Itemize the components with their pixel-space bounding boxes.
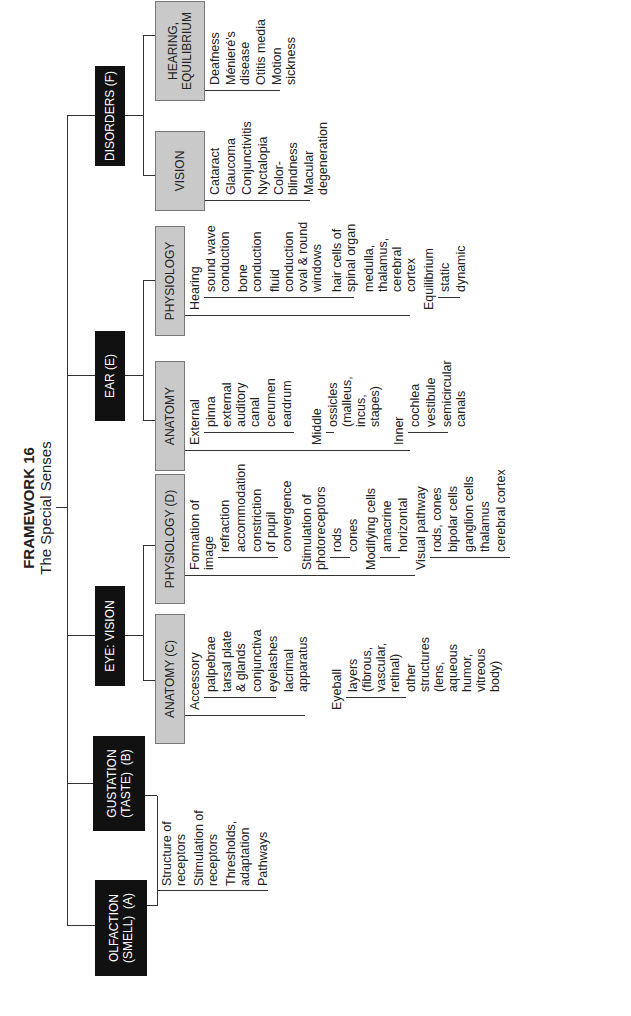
pathway-item-5: cerebral cortex [494, 469, 508, 552]
modifying-item-1: amacrine [380, 501, 394, 552]
ear-to-physiology [143, 280, 155, 281]
dis-vision-item-2: Glaucoma [224, 138, 238, 195]
ear-phys-line [185, 315, 410, 316]
olf-item-2: Stimulation of receptors [192, 810, 220, 886]
dis-vision-item-4: Nyctalopia [256, 137, 270, 195]
accessory-line [204, 697, 276, 698]
eye-phys-line [185, 575, 415, 576]
dis-hearing-item-2: Ménieré's disease [224, 31, 252, 85]
inner-item-3: semicircular canals [440, 360, 468, 427]
ear-physiology-box: PHYSIOLOGY [155, 226, 185, 336]
ear-stem [125, 375, 143, 376]
photoreceptor-line [330, 557, 350, 558]
framework-diagram: FRAMEWORK 16 The Special Senses OLFACTIO… [0, 0, 631, 1016]
eye-accessory-label: Accessory [188, 652, 202, 710]
inner-line [408, 432, 448, 433]
drop-ear [67, 375, 97, 376]
ear-anatomy-box: ANATOMY [155, 361, 185, 471]
ear-hearing-label: Hearing [188, 266, 202, 310]
dis-vision-item-5: Color- blindness [272, 142, 300, 195]
equilibrium-item-2: dynamic [454, 245, 468, 292]
category-gustation: GUSTATION (TASTE) (B) [93, 736, 145, 831]
inner-item-2: vestibule [424, 378, 438, 427]
disorders-to-hearing [143, 35, 155, 36]
accessory-item-4: eyelashes [266, 636, 280, 692]
pathway-item-4: thalamus [478, 501, 492, 552]
eyeball-item-1: layers (fibrous, vascular, retinal) [346, 643, 402, 692]
phys-photoreceptors-label: Stimulation of photoreceptors [300, 487, 328, 570]
phys-modifying-label: Modifying cells [364, 488, 378, 570]
middle-item-1: ossicles (malleus, incus, stapes) [326, 376, 382, 427]
hearing-item-5: medulla, thalamus, cerebral cortex [362, 238, 418, 292]
pathway-item-3: ganglion cells [462, 476, 476, 552]
category-ear: EAR (E) [95, 331, 125, 421]
eye-to-anatomy [143, 680, 155, 681]
phys-image-label: Formation of image [188, 500, 216, 570]
dis-vision-item-3: Conjunctivitis [240, 121, 254, 195]
external-item-2: external auditory canal [220, 383, 262, 427]
pathway-item-1: rods, cones [430, 487, 444, 552]
main-trunk-line [67, 116, 68, 926]
drop-eye [67, 635, 97, 636]
image-item-1: refraction [218, 500, 232, 552]
ear-anat-line [185, 450, 410, 451]
ear-to-anatomy [143, 420, 155, 421]
accessory-item-2: tarsal plate & glands [220, 631, 248, 692]
olf-item-1: Structure of receptors [160, 821, 188, 886]
equilibrium-line [438, 297, 460, 298]
disorders-stem [125, 115, 143, 116]
hearing-line [204, 297, 354, 298]
olf-items-line [158, 890, 268, 891]
drop-disorders [67, 115, 97, 116]
ear-equilibrium-label: Equilibrium [422, 248, 436, 310]
gust-connector [145, 795, 157, 796]
category-eye-vision: EYE: VISION [95, 586, 125, 686]
eye-anatomy-box: ANATOMY (C) [155, 614, 185, 744]
external-item-4: eardrum [280, 380, 294, 427]
dis-hearing-item-4: Motion sickness [270, 37, 298, 85]
accessory-item-5: lacrimal apparatus [282, 636, 310, 692]
dis-hearing-item-1: Deafness [208, 32, 222, 85]
photoreceptor-item-2: cones [346, 519, 360, 552]
hearing-item-3: fluid conduction oval & round windows [268, 222, 324, 292]
dis-hearing-line [205, 90, 280, 91]
image-item-3: constriction of pupil [250, 489, 278, 552]
eyeball-line [346, 697, 406, 698]
eye-anat-line [185, 715, 305, 716]
accessory-item-1: palpebrae [204, 636, 218, 692]
image-item-2: accommodation [234, 464, 248, 552]
disorders-branch [143, 36, 144, 176]
title-subtitle: The Special Senses [37, 358, 54, 658]
disorders-vision-box: VISION [155, 131, 205, 211]
modifying-line [380, 557, 400, 558]
eye-eyeball-label: Eyeball [330, 669, 344, 710]
diagram-title: FRAMEWORK 16 The Special Senses [20, 358, 54, 658]
inner-item-1: cochlea [408, 384, 422, 427]
ear-branch [143, 281, 144, 421]
accessory-item-3: conjunctiva [250, 629, 264, 692]
ear-middle-label: Middle [310, 408, 324, 445]
disorders-to-vision [143, 175, 155, 176]
olf-connector [147, 905, 157, 906]
external-line [204, 432, 294, 433]
category-disorders: DISORDERS (F) [95, 66, 125, 166]
equilibrium-item-1: static [438, 263, 452, 292]
eye-branch [143, 546, 144, 681]
image-item-4: convergence [280, 480, 294, 552]
hearing-item-1: sound wave conduction [204, 225, 232, 292]
external-item-1: pinna [204, 396, 218, 427]
image-line [218, 557, 278, 558]
modifying-item-2: horizontal [396, 498, 410, 552]
dis-hearing-item-3: Otitis media [254, 19, 268, 85]
pathway-item-2: bipolar cells [446, 486, 460, 552]
ear-inner-label: Inner [392, 417, 406, 446]
dis-vision-line [205, 200, 310, 201]
phys-visual-pathway-label: Visual pathway [414, 486, 428, 570]
dis-vision-item-1: Cataract [208, 148, 222, 195]
eye-physiology-box: PHYSIOLOGY (D) [155, 474, 185, 604]
eye-to-physiology [143, 545, 155, 546]
olf-item-4: Pathways [256, 832, 270, 886]
external-item-3: cerumen [264, 378, 278, 427]
hearing-item-2: bone conduction [236, 232, 264, 292]
visual-pathway-line [430, 557, 510, 558]
